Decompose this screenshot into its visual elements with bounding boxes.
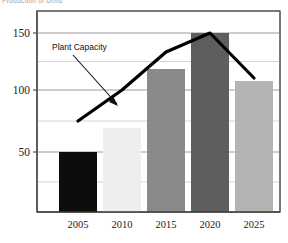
bar-2010[interactable] [103,128,141,212]
figure-container: Production of Units 150 100 50 [0,0,288,243]
y-tick-label-150: 150 [13,27,31,39]
bar-2020[interactable] [191,33,229,212]
plant-capacity-label: Plant Capacity [52,42,108,52]
y-tick-label-50: 50 [19,146,31,158]
x-tick-label-2015: 2015 [156,219,177,230]
x-tick-label-2005: 2005 [68,219,89,230]
x-tick-label-2010: 2010 [112,219,133,230]
x-tick-label-2025: 2025 [244,219,265,230]
bar-2025[interactable] [235,81,273,212]
chart-plot: 150 100 50 Plant Capacity 2005 2010 2015… [0,0,288,243]
y-tick-label-100: 100 [13,84,31,96]
bar-2015[interactable] [147,69,185,212]
x-tick-label-2020: 2020 [200,219,221,230]
bar-2005[interactable] [59,152,97,212]
